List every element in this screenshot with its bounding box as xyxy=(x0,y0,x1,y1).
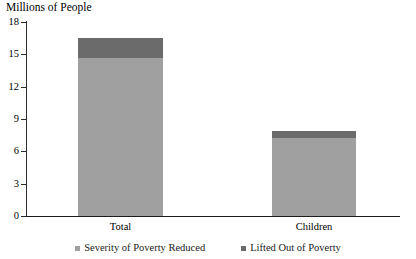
y-axis-line xyxy=(26,21,27,217)
y-axis-tick xyxy=(21,216,26,217)
y-axis-tick-label: 12 xyxy=(0,82,19,92)
y-axis-tick-label: 9 xyxy=(0,114,19,124)
y-axis-tick-label: 3 xyxy=(0,179,19,189)
x-axis-label-total: Total xyxy=(38,221,203,233)
y-axis-tick xyxy=(21,184,26,185)
y-axis-tick-label: 18 xyxy=(0,17,19,27)
bar-segment[interactable] xyxy=(78,38,163,57)
legend-label: Severity of Poverty Reduced xyxy=(84,242,205,254)
y-axis-tick xyxy=(21,22,26,23)
bar-segment[interactable] xyxy=(78,58,163,216)
bar-segment[interactable] xyxy=(272,138,356,216)
y-axis-tick xyxy=(21,119,26,120)
x-axis-line xyxy=(26,216,400,217)
bar-children[interactable] xyxy=(272,131,356,216)
y-axis-labels: 0369121518 xyxy=(0,0,19,259)
bar-segment[interactable] xyxy=(272,131,356,139)
y-axis-tick-label: 15 xyxy=(0,49,19,59)
bar-chart: Millions of People 0369121518 TotalChild… xyxy=(0,0,416,259)
legend-item-0[interactable]: Severity of Poverty Reduced xyxy=(75,242,205,254)
legend-label: Lifted Out of Poverty xyxy=(250,242,341,254)
y-axis-tick-label: 6 xyxy=(0,146,19,156)
legend-swatch-icon xyxy=(75,246,80,251)
y-axis-tick-label: 0 xyxy=(0,211,19,221)
y-axis-tick xyxy=(21,87,26,88)
bar-total[interactable] xyxy=(78,38,163,216)
chart-legend: Severity of Poverty ReducedLifted Out of… xyxy=(0,240,416,256)
y-axis-tick xyxy=(21,151,26,152)
legend-item-1[interactable]: Lifted Out of Poverty xyxy=(241,242,341,254)
x-axis-label-children: Children xyxy=(232,221,396,233)
y-axis-tick xyxy=(21,54,26,55)
legend-swatch-icon xyxy=(241,246,246,251)
